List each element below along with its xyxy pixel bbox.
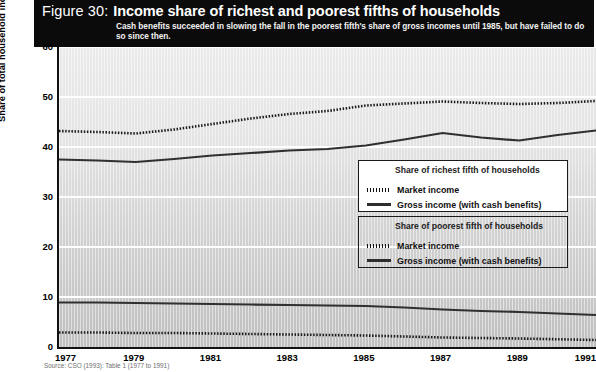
legend-item-richest-gross-income[interactable]: Gross income (with cash benefits) [367,195,542,208]
legend-item-poorest-market-income[interactable]: Market income [367,236,459,249]
dotted-line-swatch-icon [367,188,391,192]
series-line [59,131,596,163]
x-tick-label: 1987 [430,352,451,363]
y-tick-label: 40 [27,141,53,152]
legend-richest-fifth[interactable]: Share of richest fifth of households Mar… [358,160,568,212]
figure-subtitle: Cash benefits succeeded in slowing the f… [116,21,586,42]
x-tick-label: 1981 [200,352,221,363]
solid-line-swatch-icon [367,259,391,262]
figure-title-row: Figure 30:Income share of richest and po… [42,2,500,20]
source-note: Source: CSO (1993): Table 1 (1977 to 199… [44,362,169,369]
x-tick-label: 1989 [507,352,528,363]
y-tick-label: 10 [27,291,53,302]
legend-item-richest-market-income[interactable]: Market income [367,180,459,193]
legend-label: Market income [397,185,459,195]
page-title: Income share of richest and poorest fift… [113,3,500,19]
solid-line-swatch-icon [367,203,391,206]
series-line [59,303,596,316]
dotted-line-swatch-icon [367,244,391,248]
x-tick-label: 1985 [353,352,374,363]
series-line [59,101,596,134]
series-line [59,333,596,341]
legend-label: Market income [397,241,459,251]
figure-header: Figure 30:Income share of richest and po… [34,0,594,47]
x-tick-label: 1991 [575,352,596,363]
y-tick-label: 20 [27,241,53,252]
legend-poorest-fifth[interactable]: Share of poorest fifth of households Mar… [358,216,568,268]
legend-label: Gross income (with cash benefits) [397,256,542,266]
y-tick-label: 30 [27,191,53,202]
legend-richest-heading: Share of richest fifth of households [395,165,540,175]
y-tick-label: 50 [27,91,53,102]
legend-label: Gross income (with cash benefits) [397,200,542,210]
y-tick-label: 0 [27,341,53,352]
legend-item-poorest-gross-income[interactable]: Gross income (with cash benefits) [367,251,542,264]
figure-number: Figure 30: [42,3,108,19]
y-tick-label: 60 [27,41,53,52]
y-axis-title: Share of total household income (%) [0,0,7,122]
x-tick-label: 1983 [277,352,298,363]
legend-poorest-heading: Share of poorest fifth of households [395,221,543,231]
